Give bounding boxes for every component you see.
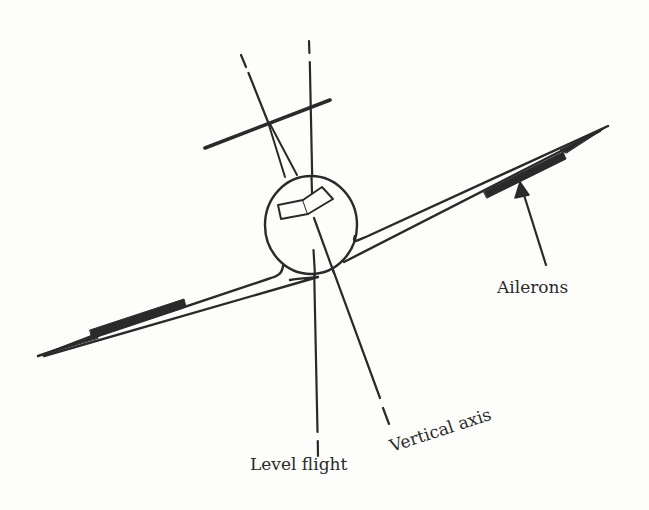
arrowhead-icon (515, 182, 529, 198)
airplane-bank-diagram: Ailerons Level flight Vertical axis (0, 0, 649, 510)
level-flight-label: Level flight (250, 454, 347, 474)
left-wing-tip (38, 334, 98, 356)
vertical-fin (268, 122, 297, 177)
ailerons-arrow (515, 182, 546, 265)
diagram-canvas: Ailerons Level flight Vertical axis (0, 0, 649, 510)
vertical-axis-label: Vertical axis (386, 404, 494, 456)
level-flight-line-inner-lower (314, 250, 316, 275)
ailerons-label: Ailerons (496, 277, 568, 297)
right-wing-tip (560, 126, 608, 153)
